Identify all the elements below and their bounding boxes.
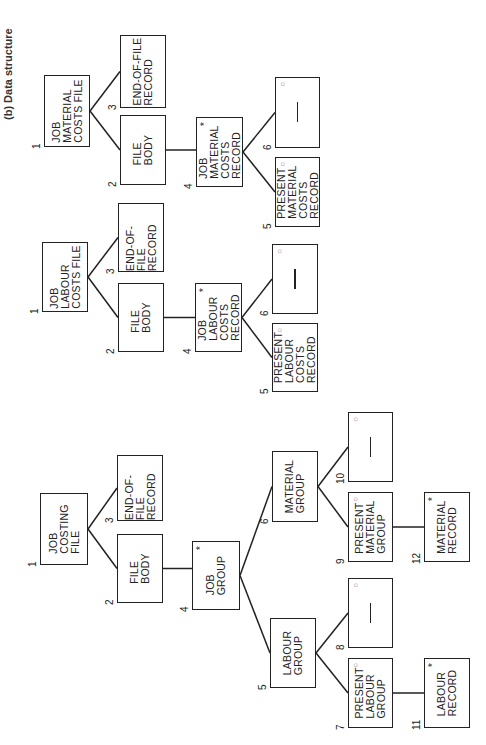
empty-selection-dash — [297, 103, 298, 123]
job-labour-costs-file-node-1: JOB LABOUR COSTS FILE — [42, 242, 88, 312]
node-number: 1 — [29, 308, 40, 314]
connector-line — [90, 111, 120, 150]
node-number: 2 — [107, 181, 118, 187]
selection-circle-icon: ○ — [351, 583, 360, 588]
job-material-costs-file-node-2: FILE BODY — [120, 115, 166, 185]
job-material-costs-file-node-4: JOB MATERIAL COSTS RECORD* — [196, 117, 243, 187]
job-material-costs-file-node-3: END-OF-FILE RECORD — [120, 35, 166, 108]
node-number: 4 — [179, 606, 190, 612]
job-costing-file-node-8: ○ — [348, 578, 393, 648]
node-number: 3 — [107, 104, 118, 110]
node-number: 4 — [182, 348, 193, 354]
job-labour-costs-file-node-6: ○ — [272, 244, 318, 314]
iteration-asterisk-icon: * — [426, 497, 438, 501]
iteration-asterisk-icon: * — [198, 122, 210, 126]
job-costing-file-node-6: MATERIAL GROUP — [272, 451, 318, 522]
node-label: FILE BODY — [129, 553, 151, 584]
node-label: JOB LABOUR COSTS FILE — [49, 245, 82, 308]
node-label: PRESENT LABOUR COSTS RECORD — [273, 332, 317, 383]
node-number: 11 — [411, 720, 422, 730]
empty-selection-dash — [294, 269, 295, 289]
selection-circle-icon: ○ — [351, 663, 360, 668]
connector-line — [316, 653, 348, 693]
node-label: LABOUR GROUP — [282, 631, 304, 675]
node-number: 3 — [104, 517, 115, 523]
node-number: 2 — [104, 599, 115, 605]
selection-circle-icon: ○ — [275, 249, 284, 254]
iteration-asterisk-icon: * — [194, 546, 206, 550]
node-number: 1 — [27, 561, 38, 567]
selection-circle-icon: ○ — [351, 497, 360, 502]
node-number: 1 — [31, 143, 42, 149]
node-number: 10 — [335, 473, 346, 484]
job-material-costs-file-node-1: JOB MATERIAL COSTS FILE — [44, 75, 90, 147]
connector-line — [88, 277, 118, 318]
node-label: FILE BODY — [130, 302, 152, 333]
node-label: JOB MATERIAL COSTS FILE — [51, 79, 84, 142]
selection-circle-icon: ○ — [278, 162, 287, 167]
node-number: 8 — [335, 644, 346, 650]
node-number: 5 — [262, 223, 273, 229]
job-costing-file-node-9: PRESENT MATERIAL GROUP○ — [348, 492, 393, 562]
iteration-asterisk-icon: * — [426, 663, 438, 667]
empty-selection-dash — [370, 437, 371, 457]
job-labour-costs-file-node-4: JOB LABOUR COSTS RECORD* — [195, 283, 242, 352]
node-number: 6 — [259, 518, 270, 524]
diagram-canvas: JOB COSTING FILE1FILE BODY2END-OF-FILE R… — [0, 0, 486, 745]
node-label: PRESENT MATERIAL COSTS RECORD — [276, 165, 320, 218]
job-costing-file-node-4: JOB GROUP* — [192, 541, 240, 610]
node-label: PRESENT LABOUR GROUP — [354, 668, 387, 719]
job-labour-costs-file-node-2: FILE BODY — [118, 283, 164, 352]
empty-selection-dash — [370, 603, 371, 623]
node-label: JOB GROUP — [205, 556, 227, 596]
job-material-costs-file-node-6: ○ — [275, 77, 320, 148]
job-costing-file-node-10: ○ — [348, 412, 393, 482]
job-labour-costs-file-node-5: PRESENT LABOUR COSTS RECORD○ — [272, 323, 318, 392]
iteration-asterisk-icon: * — [197, 288, 209, 292]
node-label: MATERIAL RECORD — [436, 500, 458, 553]
job-costing-file-node-2: FILE BODY — [117, 534, 163, 603]
node-number: 6 — [262, 144, 273, 150]
job-costing-file-node-1: JOB COSTING FILE — [40, 493, 88, 565]
node-label: MATERIAL GROUP — [284, 460, 306, 513]
connector-line — [318, 487, 348, 528]
selection-circle-icon: ○ — [351, 417, 360, 422]
node-number: 9 — [335, 558, 346, 564]
node-label: END-OF-FILE RECORD — [132, 37, 154, 105]
connector-line — [242, 318, 272, 358]
connector-line — [240, 487, 272, 576]
node-number: 5 — [257, 684, 268, 690]
selection-circle-icon: ○ — [278, 82, 287, 87]
node-number: 2 — [105, 348, 116, 354]
job-costing-file-node-7: PRESENT LABOUR GROUP○ — [348, 658, 393, 728]
job-costing-file-node-11: LABOUR RECORD* — [424, 658, 470, 728]
connector-line — [243, 152, 275, 192]
node-number: 4 — [183, 183, 194, 189]
connector-line — [240, 576, 270, 654]
selection-circle-icon: ○ — [275, 328, 284, 333]
node-label: END-OF-FILE RECORD — [125, 204, 158, 271]
node-number: 12 — [411, 553, 422, 564]
node-number: 7 — [335, 724, 346, 730]
job-costing-file-node-3: END-OF-FILE RECORD — [117, 455, 163, 521]
node-number: 3 — [105, 268, 116, 274]
connector-line — [88, 529, 117, 569]
node-label: JOB LABOUR COSTS RECORD — [197, 294, 241, 341]
node-label: FILE BODY — [132, 135, 154, 166]
node-label: JOB MATERIAL COSTS RECORD — [198, 125, 242, 178]
node-number: 6 — [259, 310, 270, 316]
job-costing-file-node-12: MATERIAL RECORD* — [424, 492, 470, 562]
node-label: PRESENT MATERIAL GROUP — [354, 500, 387, 553]
node-number: 5 — [259, 388, 270, 394]
job-material-costs-file-node-5: PRESENT MATERIAL COSTS RECORD○ — [275, 157, 320, 227]
node-label: JOB COSTING FILE — [48, 504, 81, 553]
node-label: END-OF-FILE RECORD — [124, 456, 157, 520]
job-labour-costs-file-node-3: END-OF-FILE RECORD — [118, 203, 164, 272]
node-label: LABOUR RECORD — [436, 670, 458, 717]
job-costing-file-node-5: LABOUR GROUP — [270, 618, 316, 688]
